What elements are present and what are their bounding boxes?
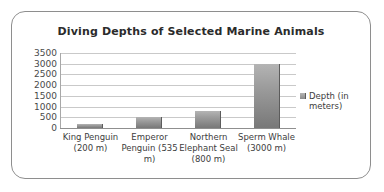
y-axis-tick-label: 2500 bbox=[16, 70, 57, 79]
bar bbox=[254, 64, 280, 128]
x-axis-category-label: Northern Elephant Seal (800 m) bbox=[179, 132, 238, 165]
y-axis-tick-label: 500 bbox=[16, 113, 57, 122]
y-axis-tick-label: 0 bbox=[16, 124, 57, 133]
x-axis-category-label: Sperm Whale (3000 m) bbox=[237, 132, 296, 154]
chart-legend: Depth (in meters) bbox=[300, 91, 370, 111]
y-axis-tick-label: 3500 bbox=[16, 49, 57, 58]
y-axis-tick-label: 1000 bbox=[16, 103, 57, 112]
chart-title: Diving Depths of Selected Marine Animals bbox=[12, 25, 370, 38]
legend-swatch-icon bbox=[300, 93, 306, 99]
legend-label: Depth (in meters) bbox=[309, 91, 370, 111]
bar bbox=[195, 111, 221, 128]
y-axis-tick-label: 2000 bbox=[16, 81, 57, 90]
y-axis-tick-labels: 3500300025002000150010005000 bbox=[16, 53, 57, 129]
x-axis-category-label: Emperor Penguin (535 m) bbox=[120, 132, 179, 165]
plot-area bbox=[61, 53, 296, 129]
y-axis-tick-label: 1500 bbox=[16, 92, 57, 101]
bar bbox=[136, 117, 162, 128]
bars-layer bbox=[61, 53, 296, 129]
x-axis-category-labels: King Penguin (200 m)Emperor Penguin (535… bbox=[61, 132, 296, 176]
x-axis-category-label: King Penguin (200 m) bbox=[61, 132, 120, 154]
y-axis-tick-label: 3000 bbox=[16, 60, 57, 69]
bar bbox=[77, 124, 103, 128]
chart-card: Diving Depths of Selected Marine Animals… bbox=[11, 11, 371, 179]
